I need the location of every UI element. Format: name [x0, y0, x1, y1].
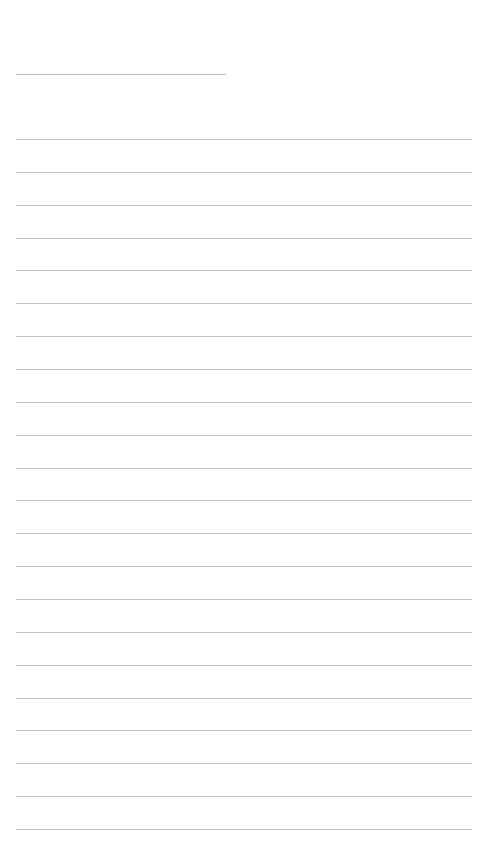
- ruled-line: [16, 402, 472, 403]
- ruled-line: [16, 632, 472, 633]
- ruled-line: [16, 468, 472, 469]
- ruled-line: [16, 763, 472, 764]
- ruled-line: [16, 665, 472, 666]
- ruled-line: [16, 270, 472, 271]
- ruled-line: [16, 698, 472, 699]
- ruled-line: [16, 238, 472, 239]
- ruled-line: [16, 369, 472, 370]
- header-line: [16, 74, 226, 75]
- ruled-line: [16, 566, 472, 567]
- ruled-line: [16, 172, 472, 173]
- ruled-line: [16, 599, 472, 600]
- ruled-line: [16, 303, 472, 304]
- ruled-line: [16, 730, 472, 731]
- ruled-line: [16, 139, 472, 140]
- ruled-line: [16, 533, 472, 534]
- ruled-line: [16, 500, 472, 501]
- ruled-line: [16, 796, 472, 797]
- ruled-line: [16, 205, 472, 206]
- ruled-line: [16, 829, 472, 830]
- ruled-line: [16, 435, 472, 436]
- lined-page: [0, 0, 489, 858]
- ruled-line: [16, 336, 472, 337]
